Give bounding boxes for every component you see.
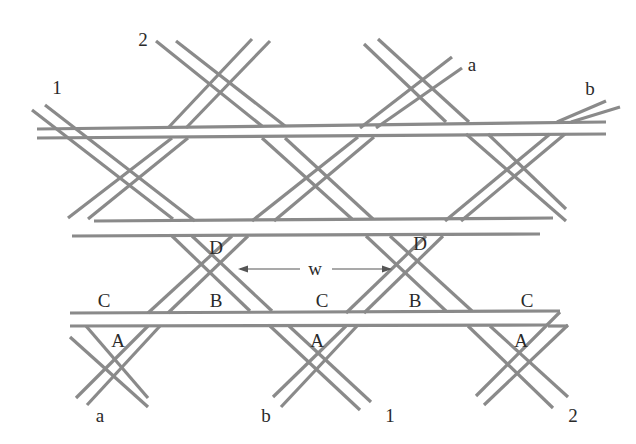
label-strip-1-top: 1	[52, 78, 62, 97]
label-strip-1-bottom: 1	[385, 406, 395, 425]
label-hole-D-left: D	[209, 238, 223, 257]
diagonal-strip-a	[76, 57, 462, 405]
label-hole-B-left: B	[210, 291, 223, 310]
label-hole-D-right: D	[413, 234, 427, 253]
label-width-w: w	[308, 259, 322, 278]
label-hole-C-left: C	[98, 291, 111, 310]
woven-lattice-diagram	[0, 0, 636, 444]
diagonal-strip-b	[273, 101, 620, 407]
diagonal-strip-a-descending	[364, 39, 566, 221]
horizontal-strip-top	[37, 122, 606, 138]
label-hole-C-right: C	[521, 291, 534, 310]
label-hole-C-middle: C	[316, 291, 329, 310]
label-strip-2-top: 2	[138, 30, 148, 49]
horizontal-strip-middle	[72, 218, 553, 236]
horizontal-strip-bottom	[70, 311, 560, 326]
label-strip-b-bottom: b	[261, 406, 271, 425]
label-hole-A-left: A	[111, 331, 125, 350]
label-strip-a-bottom: a	[96, 406, 104, 425]
label-strip-2-bottom: 2	[568, 406, 578, 425]
label-strip-a-top: a	[468, 55, 476, 74]
label-hole-B-right: B	[409, 291, 422, 310]
label-hole-A-right: A	[514, 331, 528, 350]
label-strip-b-top: b	[585, 79, 595, 98]
label-hole-A-middle: A	[310, 331, 324, 350]
